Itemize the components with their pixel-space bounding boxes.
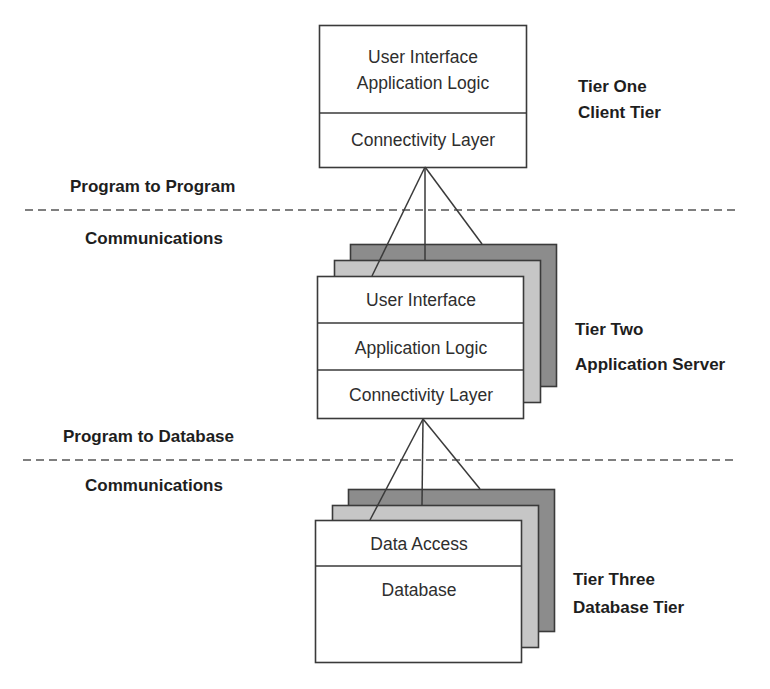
tier-one-layer-user-interface: User Interface <box>368 47 478 67</box>
tier-two-layer-connectivity: Connectivity Layer <box>349 385 493 405</box>
tier-one-layer-application-logic: Application Logic <box>357 73 490 93</box>
three-tier-diagram: User Interface Application Logic Connect… <box>0 0 770 689</box>
tier-three-group: Data Access Database Tier Three Database… <box>316 490 685 663</box>
tier-one-subtitle: Client Tier <box>578 103 661 122</box>
boundary-2-label-above: Program to Database <box>63 427 234 446</box>
tier-three-subtitle: Database Tier <box>573 598 685 617</box>
tier-three-layer-database: Database <box>382 580 457 600</box>
connector-line-middle <box>422 419 423 505</box>
boundary-program-to-program: Program to Program Communications <box>25 177 738 248</box>
boundary-1-label-above: Program to Program <box>70 177 235 196</box>
tier-one-layer-connectivity: Connectivity Layer <box>351 130 495 150</box>
tier-two-group: User Interface Application Logic Connect… <box>318 245 726 419</box>
tier-two-layer-user-interface: User Interface <box>366 290 476 310</box>
tier-two-subtitle: Application Server <box>575 355 726 374</box>
tier-one-group: User Interface Application Logic Connect… <box>320 26 662 168</box>
tier-three-layer-data-access: Data Access <box>370 534 468 554</box>
connector-line-back <box>425 167 482 244</box>
tier-three-title: Tier Three <box>573 570 655 589</box>
boundary-1-label-below: Communications <box>85 229 223 248</box>
tier-two-title: Tier Two <box>575 320 643 339</box>
connector-line-back <box>423 419 480 489</box>
tier-two-layer-application-logic: Application Logic <box>355 338 488 358</box>
tier-one-title: Tier One <box>578 77 647 96</box>
boundary-2-label-below: Communications <box>85 476 223 495</box>
boundary-program-to-database: Program to Database Communications <box>23 427 738 495</box>
